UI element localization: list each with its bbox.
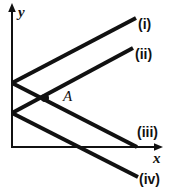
line-label-iv: (iv) <box>139 172 160 186</box>
line-i <box>12 18 136 83</box>
line-label-i: (i) <box>138 17 151 31</box>
line-label-ii: (ii) <box>135 47 152 61</box>
line-iii <box>12 83 137 147</box>
line-ii <box>12 48 133 113</box>
point-label-a: A <box>63 89 72 104</box>
point-a-marker <box>41 94 49 102</box>
y-axis-label: y <box>18 5 25 20</box>
line-iv <box>12 113 138 177</box>
x-axis-label: x <box>153 151 161 166</box>
y-axis-arrowhead-icon <box>8 3 16 12</box>
y-axis <box>8 3 16 148</box>
line-graph-figure: (i) (ii) (iii) (iv) y x A <box>0 0 177 194</box>
line-label-iii: (iii) <box>137 125 158 139</box>
